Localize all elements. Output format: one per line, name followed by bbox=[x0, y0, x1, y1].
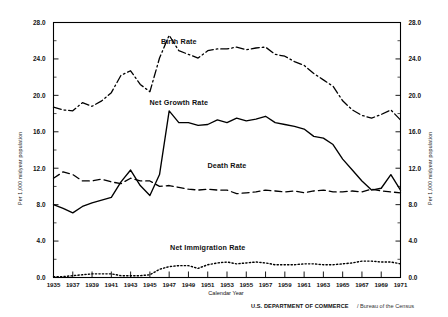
x-axis-tick-label: 1943 bbox=[124, 281, 138, 288]
y-axis-tick-label-right: 24.0 bbox=[409, 55, 422, 62]
credit-bureau: Bureau of the Census bbox=[360, 303, 414, 309]
series-line-birth-rate bbox=[54, 35, 401, 120]
y-axis-tick-label-right: 0.0 bbox=[409, 274, 418, 281]
y-axis-tick-label-right: 8.0 bbox=[409, 201, 418, 208]
y-axis-tick-label-left: 0.0 bbox=[37, 274, 46, 281]
x-axis-tick-label: 1949 bbox=[182, 281, 196, 288]
series-label-death-rate: Death Rate bbox=[207, 161, 246, 170]
x-axis-tick-label: 1963 bbox=[317, 281, 331, 288]
x-axis-tick-label: 1957 bbox=[259, 281, 273, 288]
line-chart-canvas: 0.00.04.04.08.08.012.012.016.016.020.020… bbox=[0, 0, 448, 317]
x-axis-tick-label: 1951 bbox=[201, 281, 215, 288]
x-axis-tick-label: 1967 bbox=[355, 281, 369, 288]
x-axis-tick-label: 1945 bbox=[143, 281, 157, 288]
chart-figure: 0.00.04.04.08.08.012.012.016.016.020.020… bbox=[0, 0, 448, 317]
x-axis-tick-label: 1959 bbox=[278, 281, 292, 288]
y-axis-tick-label-left: 8.0 bbox=[37, 201, 46, 208]
y-axis-tick-label-right: 4.0 bbox=[409, 237, 418, 244]
y-axis-tick-label-left: 24.0 bbox=[33, 55, 46, 62]
x-axis-tick-label: 1965 bbox=[336, 281, 350, 288]
series-label-birth-rate: Birth Rate bbox=[161, 37, 197, 46]
credit-separator: / bbox=[357, 303, 359, 309]
series-label-net-immigration-rate: Net Immigration Rate bbox=[170, 243, 245, 252]
series-label-net-growth-rate: Net Growth Rate bbox=[150, 98, 209, 107]
y-axis-tick-label-left: 28.0 bbox=[33, 19, 46, 26]
y-axis-tick-label-left: 20.0 bbox=[33, 92, 46, 99]
chart-generated-layer: 0.00.04.04.08.08.012.012.016.016.020.020… bbox=[33, 19, 421, 288]
x-axis-tick-label: 1953 bbox=[220, 281, 234, 288]
x-axis-label: Calendar Year bbox=[208, 290, 244, 296]
x-axis-tick-label: 1939 bbox=[85, 281, 99, 288]
y-axis-tick-label-right: 20.0 bbox=[409, 92, 422, 99]
x-axis-tick-label: 1971 bbox=[394, 281, 408, 288]
x-axis-tick-label: 1935 bbox=[47, 281, 61, 288]
plot-frame bbox=[54, 23, 401, 278]
x-axis-tick-label: 1961 bbox=[297, 281, 311, 288]
x-axis-tick-label: 1947 bbox=[162, 281, 176, 288]
y-axis-tick-label-right: 16.0 bbox=[409, 128, 422, 135]
x-axis-tick-label: 1937 bbox=[66, 281, 80, 288]
y-axis-tick-label-right: 12.0 bbox=[409, 165, 422, 172]
y-axis-tick-label-left: 12.0 bbox=[33, 165, 46, 172]
y-axis-label-left: Per 1,000 midyear population bbox=[17, 132, 23, 205]
x-axis-tick-label: 1969 bbox=[374, 281, 388, 288]
y-axis-tick-label-right: 28.0 bbox=[409, 19, 422, 26]
y-axis-tick-label-left: 4.0 bbox=[37, 237, 46, 244]
series-line-death-rate bbox=[54, 172, 401, 194]
x-axis-tick-label: 1955 bbox=[239, 281, 253, 288]
y-axis-label-right: Per 1,000 midyear population bbox=[427, 132, 433, 205]
y-axis-tick-label-left: 16.0 bbox=[33, 128, 46, 135]
credit-department: U.S. DEPARTMENT OF COMMERCE bbox=[251, 303, 349, 309]
x-axis-tick-label: 1941 bbox=[105, 281, 119, 288]
